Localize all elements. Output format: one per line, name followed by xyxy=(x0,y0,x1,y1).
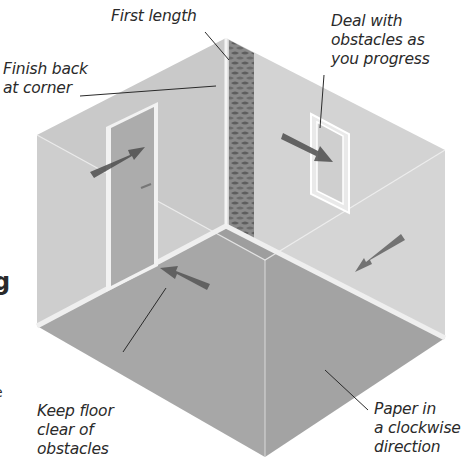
door xyxy=(111,107,154,286)
label-paper-clockwise: Paper in a clockwise direction xyxy=(374,400,461,457)
label-first-length: First length xyxy=(111,7,197,26)
first-length-strip xyxy=(229,40,254,241)
label-keep-floor-clear: Keep floor clear of obstacles xyxy=(37,402,114,459)
window-pane xyxy=(317,122,343,204)
edge-fragment-e: e xyxy=(0,384,3,400)
edge-fragment-g: g xyxy=(0,268,10,296)
label-deal-with-obstacles: Deal with obstacles as you progress xyxy=(331,12,430,69)
label-finish-back: Finish back at corner xyxy=(3,60,88,98)
room-diagram: First length Finish back at corner Deal … xyxy=(0,0,472,466)
